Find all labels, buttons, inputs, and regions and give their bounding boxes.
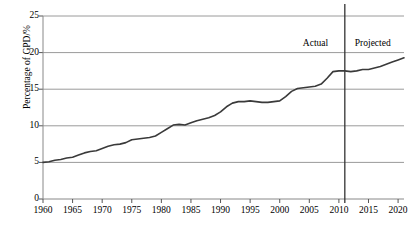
y-tick-marks-group (39, 16, 43, 199)
x-tick-label: 1980 (146, 206, 176, 216)
x-tick-label: 2000 (265, 206, 295, 216)
chart-plot-area (0, 0, 413, 233)
y-tick-label-wrap: 5 (22, 162, 39, 163)
y-tick-label: 0 (34, 194, 39, 204)
x-tick-label: 2015 (353, 206, 383, 216)
gridlines-group (43, 16, 404, 199)
y-tick-label-wrap: 10 (22, 126, 39, 127)
data-line-series (43, 58, 404, 163)
y-tick-label: 10 (30, 121, 40, 131)
x-tick-label: 1995 (235, 206, 265, 216)
y-tick-label-wrap: 25 (22, 16, 39, 17)
x-tick-label: 1960 (28, 206, 58, 216)
y-tick-label: 15 (30, 84, 40, 94)
x-tick-label: 1965 (58, 206, 88, 216)
y-tick-label: 5 (34, 157, 39, 167)
x-tick-label: 1985 (176, 206, 206, 216)
x-tick-label: 2005 (294, 206, 324, 216)
x-tick-label: 1970 (87, 206, 117, 216)
x-tick-label: 2020 (383, 206, 413, 216)
y-tick-label: 25 (30, 11, 40, 21)
y-tick-label-wrap: 20 (22, 53, 39, 54)
x-tick-label: 1975 (117, 206, 147, 216)
x-tick-label: 1990 (206, 206, 236, 216)
chart-container: Percentage of GPD/% 0510152025 196019651… (0, 0, 413, 233)
y-tick-label-wrap: 0 (22, 199, 39, 200)
region-label-actual: Actual (303, 38, 328, 48)
y-tick-label-wrap: 15 (22, 89, 39, 90)
x-tick-label: 2010 (324, 206, 354, 216)
y-tick-label: 20 (30, 48, 40, 58)
region-label-projected: Projected (355, 38, 391, 48)
